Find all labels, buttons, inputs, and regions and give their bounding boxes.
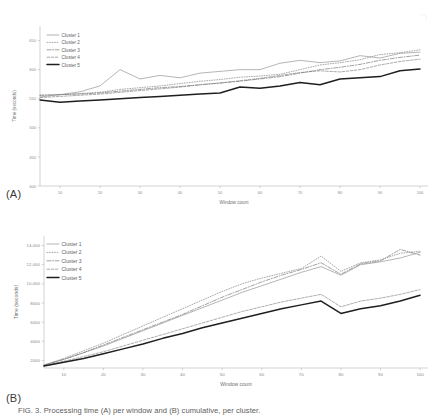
chart-panel-a: 400450500550600650102030405060708090100W… xyxy=(0,4,436,212)
x-tick-label: 60 xyxy=(259,372,264,377)
legend-label: Cluster 1 xyxy=(62,33,81,38)
legend-label: Cluster 5 xyxy=(62,275,82,281)
x-tick-label: 50 xyxy=(218,190,223,195)
y-tick-label: 2000 xyxy=(30,358,40,363)
x-tick-label: 10 xyxy=(61,372,66,377)
y-tick-label: 650 xyxy=(29,38,36,43)
x-tick-label: 70 xyxy=(298,190,303,195)
panel-b-label: (B) xyxy=(6,392,21,404)
x-tick-label: 50 xyxy=(220,372,225,377)
chart-panel-b: 200040006000800010,00012,00014,000102030… xyxy=(0,222,436,394)
y-axis-title: Time (seconds) xyxy=(13,285,19,320)
series-line xyxy=(40,69,420,102)
y-axis-title: Time (seconds) xyxy=(12,90,17,122)
y-tick-label: 14,000 xyxy=(27,243,41,248)
y-tick-label: 6000 xyxy=(30,320,40,325)
series-line xyxy=(44,249,420,365)
legend-label: Cluster 2 xyxy=(62,40,81,45)
legend-label: Cluster 4 xyxy=(62,55,81,60)
x-tick-label: 90 xyxy=(378,190,383,195)
y-tick-label: 400 xyxy=(29,184,36,189)
y-tick-label: 8000 xyxy=(30,301,40,306)
x-tick-label: 70 xyxy=(299,372,304,377)
legend-label: Cluster 3 xyxy=(62,258,82,264)
y-tick-label: 500 xyxy=(29,125,36,130)
x-tick-label: 20 xyxy=(101,372,106,377)
x-tick-label: 100 xyxy=(417,190,424,195)
chart-b-plot: 200040006000800010,00012,00014,000102030… xyxy=(0,222,436,394)
panel-a-label: (A) xyxy=(6,188,21,200)
y-tick-label: 600 xyxy=(29,67,36,72)
x-tick-label: 80 xyxy=(338,190,343,195)
legend-label: Cluster 1 xyxy=(62,241,82,247)
y-tick-label: 12,000 xyxy=(27,262,41,267)
y-tick-label: 450 xyxy=(29,155,36,160)
figure-container: 400450500550600650102030405060708090100W… xyxy=(0,0,436,416)
x-tick-label: 10 xyxy=(58,190,63,195)
figure-caption: FIG. 3. Processing time (A) per window a… xyxy=(18,406,436,416)
y-tick-label: 4000 xyxy=(30,339,40,344)
x-tick-label: 90 xyxy=(378,372,383,377)
x-tick-label: 20 xyxy=(98,190,103,195)
x-axis-title: Window count xyxy=(220,200,250,205)
chart-a-plot: 400450500550600650102030405060708090100W… xyxy=(0,4,436,212)
x-tick-label: 40 xyxy=(180,372,185,377)
series-line xyxy=(44,295,420,366)
x-tick-label: 30 xyxy=(141,372,146,377)
legend-label: Cluster 5 xyxy=(62,63,81,68)
legend-label: Cluster 3 xyxy=(62,48,81,53)
x-tick-label: 100 xyxy=(416,372,424,377)
legend-label: Cluster 2 xyxy=(62,249,82,255)
x-tick-label: 60 xyxy=(258,190,263,195)
x-tick-label: 80 xyxy=(338,372,343,377)
series-line xyxy=(40,55,420,95)
x-axis-title: Window count xyxy=(220,381,252,387)
y-tick-label: 550 xyxy=(29,96,36,101)
x-tick-label: 40 xyxy=(178,190,183,195)
x-tick-label: 30 xyxy=(138,190,143,195)
legend-label: Cluster 4 xyxy=(62,266,82,272)
series-line xyxy=(40,50,420,95)
y-tick-label: 10,000 xyxy=(27,281,41,286)
